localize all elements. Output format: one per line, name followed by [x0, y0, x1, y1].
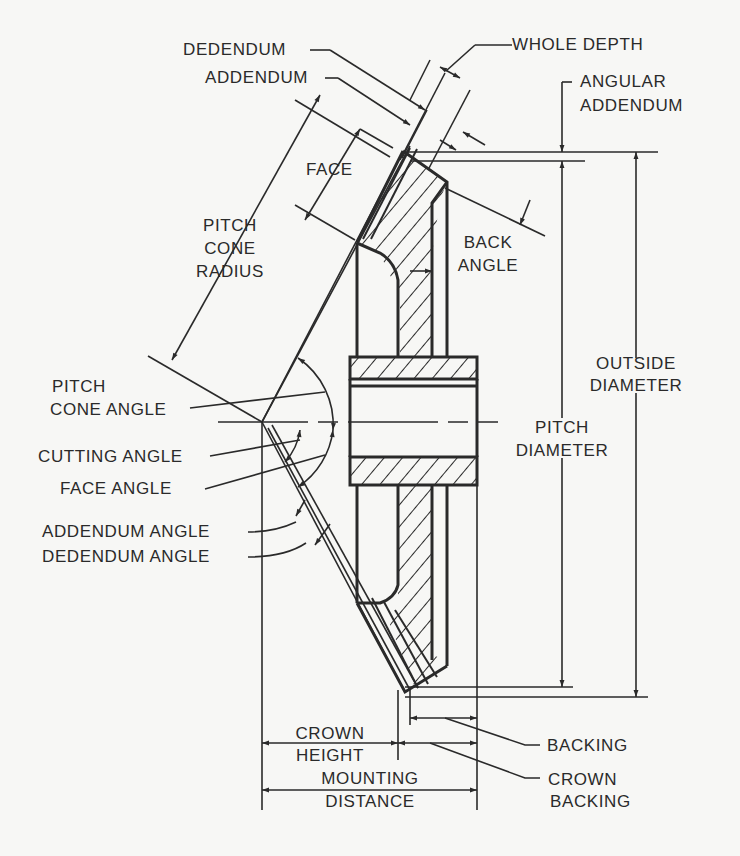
label-addendum: ADDENDUM	[205, 68, 308, 88]
label-crown-backing-2: BACKING	[550, 792, 631, 812]
label-pitch-diameter-2: DIAMETER	[512, 441, 612, 461]
label-angular-addendum-1: ANGULAR	[580, 72, 666, 92]
label-back-angle-2: ANGLE	[448, 256, 528, 276]
label-cutting-angle: CUTTING ANGLE	[38, 447, 183, 467]
label-pitch-cone-radius-1: PITCH	[190, 216, 270, 236]
label-crown-height-2: HEIGHT	[285, 746, 375, 766]
label-crown-backing-1: CROWN	[548, 770, 617, 790]
label-pitch-cone-radius-3: RADIUS	[190, 262, 270, 282]
label-dedendum-angle: DEDENDUM ANGLE	[42, 547, 210, 567]
label-pitch-diameter-1: PITCH	[512, 418, 612, 438]
label-outside-diameter-2: DIAMETER	[586, 376, 686, 396]
label-backing: BACKING	[547, 736, 628, 756]
label-crown-height-1: CROWN	[285, 724, 375, 744]
label-face: FACE	[306, 160, 353, 180]
gear-section-lower	[357, 485, 447, 695]
gear-section-upper	[357, 148, 447, 357]
label-face-angle: FACE ANGLE	[60, 479, 172, 499]
label-whole-depth: WHOLE DEPTH	[512, 35, 643, 55]
label-dedendum: DEDENDUM	[183, 40, 286, 60]
label-pitch-cone-angle-2: CONE ANGLE	[50, 400, 167, 420]
label-addendum-angle: ADDENDUM ANGLE	[42, 522, 210, 542]
label-back-angle-1: BACK	[448, 233, 528, 253]
label-mounting-distance-1: MOUNTING	[305, 769, 435, 789]
label-pitch-cone-radius-2: CONE	[190, 239, 270, 259]
label-angular-addendum-2: ADDENDUM	[580, 96, 683, 116]
gear-hub	[350, 357, 477, 485]
label-pitch-cone-angle-1: PITCH	[52, 377, 106, 397]
label-outside-diameter-1: OUTSIDE	[586, 354, 686, 374]
label-mounting-distance-2: DISTANCE	[305, 792, 435, 812]
